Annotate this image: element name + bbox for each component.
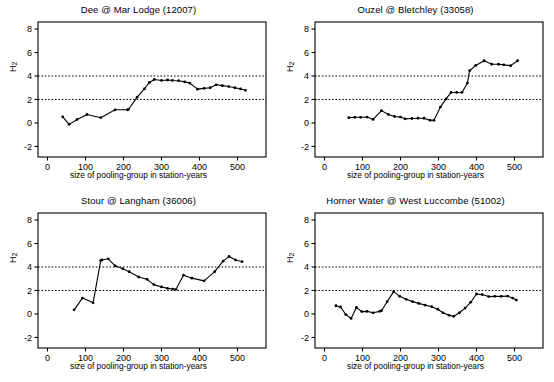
data-point (509, 64, 512, 67)
y-tick-label: 0 (27, 118, 32, 128)
data-point (182, 274, 185, 277)
data-point (366, 116, 369, 119)
data-point (466, 82, 469, 85)
data-point (347, 116, 350, 119)
data-point (483, 59, 486, 62)
data-point (350, 317, 353, 320)
y-tick-label: 4 (27, 262, 32, 272)
data-point (196, 88, 199, 91)
data-point (227, 85, 230, 88)
data-point (121, 267, 124, 270)
y-tick-label: -2 (301, 142, 309, 152)
data-point (171, 79, 174, 82)
y-tick-label: 4 (304, 262, 309, 272)
data-point (392, 290, 395, 293)
y-tick-label: 2 (304, 95, 309, 105)
data-point (73, 308, 76, 311)
data-point (497, 63, 500, 66)
data-point (464, 307, 467, 310)
y-tick-label: 6 (27, 239, 32, 249)
data-point (177, 79, 180, 82)
plot-area: -2024680100200300400500 (0, 0, 277, 191)
data-point (128, 270, 131, 273)
data-point (404, 117, 407, 120)
y-tick-label: 2 (27, 286, 32, 296)
data-point (515, 299, 518, 302)
data-point (461, 91, 464, 94)
data-point (114, 264, 117, 267)
y-tick-label: 0 (304, 118, 309, 128)
data-point (239, 88, 242, 91)
y-tick-label: 6 (304, 48, 309, 58)
data-point (114, 108, 117, 111)
data-series-line (63, 80, 246, 125)
data-point (146, 278, 149, 281)
panel-stour-langham: -2024680100200300400500 Stour @ Langham … (0, 191, 277, 382)
data-point (100, 259, 103, 262)
data-point (153, 78, 156, 81)
y-tick-label: -2 (24, 333, 32, 343)
data-point (439, 106, 442, 109)
data-point (502, 63, 505, 66)
data-point (172, 288, 175, 291)
data-point (366, 310, 369, 313)
data-point (153, 283, 156, 286)
axes-frame (315, 213, 543, 348)
data-point (61, 115, 64, 118)
data-point (360, 310, 363, 313)
data-point (215, 83, 218, 86)
data-point (445, 97, 448, 100)
plot-area: -2024680100200300400500 (277, 0, 554, 191)
data-point (175, 288, 178, 291)
y-tick-label: -2 (24, 142, 32, 152)
data-point (166, 79, 169, 82)
x-axis-label: size of pooling-group in station-years (277, 361, 554, 371)
data-point (500, 295, 503, 298)
data-point (137, 276, 140, 279)
panel-ouzel-bletchley: -2024680100200300400500 Ouzel @ Bletchle… (277, 0, 554, 191)
data-point (386, 300, 389, 303)
data-point (68, 123, 71, 126)
data-point (455, 91, 458, 94)
panel-title: Dee @ Mar Lodge (12007) (0, 4, 277, 15)
data-point (387, 113, 390, 116)
y-tick-label: 2 (27, 95, 32, 105)
data-point (160, 79, 163, 82)
y-tick-label: 4 (304, 71, 309, 81)
y-axis-label: H2 (285, 253, 295, 263)
data-point (487, 295, 490, 298)
data-point (411, 300, 414, 303)
plot-area: -2024680100200300400500 (277, 191, 554, 382)
y-axis-label: H2 (8, 62, 18, 72)
data-point (166, 287, 169, 290)
data-point (136, 96, 139, 99)
axes-frame (38, 213, 266, 348)
data-point (183, 80, 186, 83)
data-point (359, 116, 362, 119)
data-point (458, 311, 461, 314)
data-point (516, 59, 519, 62)
data-point (209, 86, 212, 89)
y-tick-label: 6 (304, 239, 309, 249)
y-tick-label: 8 (304, 215, 309, 225)
data-point (511, 297, 514, 300)
data-point (481, 293, 484, 296)
x-axis-label: size of pooling-group in station-years (0, 361, 277, 371)
panel-title: Ouzel @ Bletchley (33058) (277, 4, 554, 15)
data-point (506, 295, 509, 298)
panel-title: Stour @ Langham (36006) (0, 195, 277, 206)
data-point (398, 295, 401, 298)
data-point (148, 81, 151, 84)
data-point (354, 116, 357, 119)
y-tick-label: 8 (27, 215, 32, 225)
data-point (335, 304, 338, 307)
data-point (490, 63, 493, 66)
data-point (127, 108, 130, 111)
data-point (436, 308, 439, 311)
data-point (233, 86, 236, 89)
y-tick-label: 0 (27, 309, 32, 319)
y-tick-label: 8 (304, 24, 309, 34)
panel-horner-water-west-luccombe: -2024680100200300400500 Horner Water @ W… (277, 191, 554, 382)
y-tick-label: 2 (304, 286, 309, 296)
x-axis-label: size of pooling-group in station-years (277, 170, 554, 180)
